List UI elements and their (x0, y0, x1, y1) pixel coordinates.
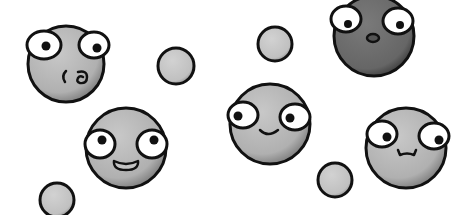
smile-face (228, 84, 310, 164)
right-eye-icon (79, 32, 109, 58)
left-eye-icon (27, 31, 61, 59)
kissy-face (27, 26, 109, 102)
surprised-face (331, 0, 414, 76)
small-ball (158, 48, 194, 84)
wavy-face (366, 108, 449, 188)
grin-face (85, 108, 167, 188)
right-eye-icon (280, 104, 310, 130)
right-eye-icon (137, 130, 167, 158)
small-ball (318, 163, 352, 197)
right-eye-icon (383, 8, 413, 34)
o-mouth-icon (367, 34, 379, 42)
small-ball (40, 183, 74, 215)
left-eye-icon (331, 6, 361, 32)
left-eye-icon (85, 130, 115, 158)
right-eye-icon (419, 123, 449, 149)
left-eye-icon (367, 121, 397, 147)
small-ball (258, 27, 292, 61)
left-eye-icon (228, 102, 258, 128)
illustration-scene (0, 0, 464, 215)
